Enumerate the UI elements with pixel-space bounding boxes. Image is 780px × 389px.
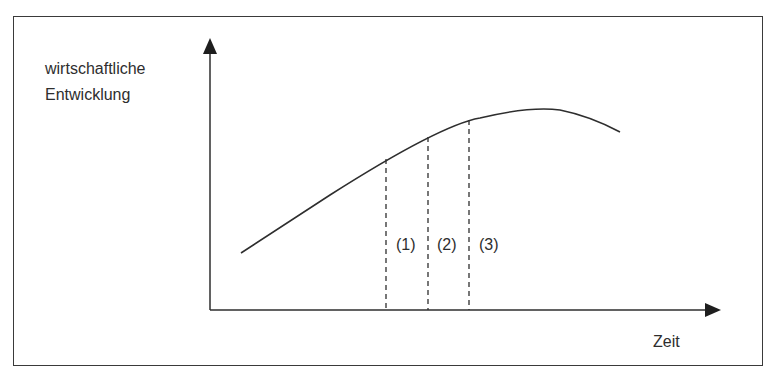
x-axis-arrow-icon	[705, 303, 721, 317]
y-axis-arrow-icon	[203, 38, 217, 54]
phase-label-3: (3)	[479, 236, 499, 254]
x-axis-label: Zeit	[653, 329, 680, 355]
y-axis-label-line2: Entwicklung	[45, 82, 145, 108]
development-curve	[241, 109, 620, 253]
phase-label-1: (1)	[396, 236, 416, 254]
y-axis-label-line1: wirtschaftliche	[45, 56, 145, 82]
y-axis-label: wirtschaftliche Entwicklung	[45, 56, 145, 108]
phase-label-2: (2)	[437, 236, 457, 254]
